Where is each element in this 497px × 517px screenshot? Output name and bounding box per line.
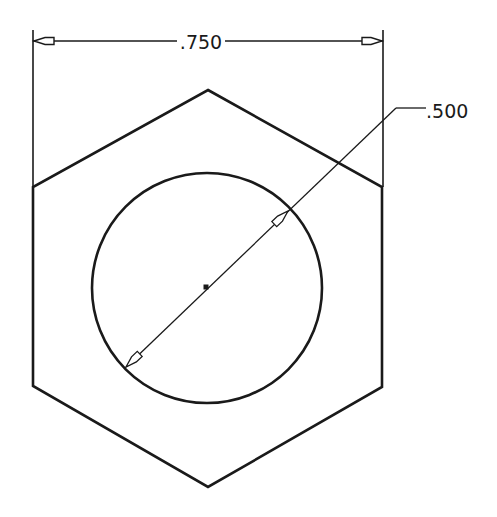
technical-drawing: .750 .500 <box>0 0 497 517</box>
arrowhead-upper-icon <box>272 208 291 226</box>
diameter-line <box>126 108 396 367</box>
diameter-dimension-label: .500 <box>426 100 468 122</box>
arrowhead-left-icon <box>34 38 54 45</box>
width-dimension: .750 <box>33 30 383 187</box>
width-dimension-label: .750 <box>180 31 222 53</box>
arrowhead-right-icon <box>362 38 382 45</box>
arrowhead-lower-icon <box>124 351 143 369</box>
